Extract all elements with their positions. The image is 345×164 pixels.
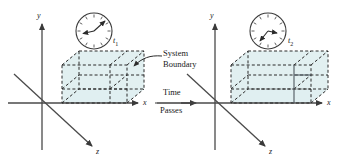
- system-boundary-label-line2: Boundary: [163, 59, 197, 69]
- system-boundary-label-line1: System: [163, 48, 188, 58]
- time-passes-label-line1: Time: [163, 87, 181, 97]
- left-z-axis-label: z: [96, 148, 99, 156]
- left-system-fill: [62, 51, 144, 103]
- right-system-fill: [231, 51, 328, 103]
- left-clock-time-label: t1: [113, 37, 118, 47]
- right-clock-icon: [250, 13, 286, 49]
- figure-canvas: y x z y x z t1 t2 System Boundary Time P…: [0, 0, 345, 164]
- left-clock-icon: [76, 13, 112, 49]
- left-x-axis-label: x: [143, 99, 147, 107]
- time-passes-label-line2: Passes: [160, 105, 182, 115]
- diagram-svg: [0, 0, 345, 164]
- right-clock-time-label: t2: [288, 37, 293, 47]
- right-y-axis-label: y: [210, 12, 214, 20]
- right-panel: [181, 13, 328, 150]
- right-x-axis-label: x: [327, 99, 331, 107]
- right-z-axis-label: z: [269, 148, 272, 156]
- left-y-axis-label: y: [37, 12, 41, 20]
- left-panel: [8, 13, 144, 150]
